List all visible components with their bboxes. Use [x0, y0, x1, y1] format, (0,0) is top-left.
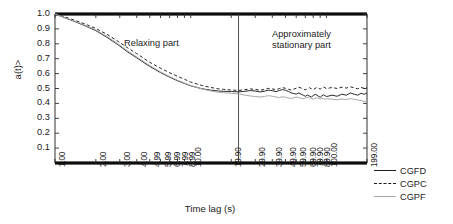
- x-tick-label: 4.99: [153, 152, 162, 167]
- x-tick-label: 49.90: [289, 148, 298, 168]
- legend-item-cgpc[interactable]: CGPC: [374, 177, 427, 190]
- x-tick-label: 19.90: [234, 148, 243, 168]
- annotation-relaxing-part: Relaxing part: [124, 38, 179, 49]
- legend: CGFD CGPC CGPF: [374, 164, 427, 203]
- legend-swatch-gray-icon: [374, 193, 396, 201]
- legend-swatch-solid-icon: [374, 167, 396, 175]
- legend-label-cgfd: CGFD: [400, 166, 426, 176]
- x-tick-label: 59.90: [299, 148, 308, 168]
- x-tick-label: 29.90: [258, 148, 267, 168]
- legend-item-cgfd[interactable]: CGFD: [374, 164, 427, 177]
- x-tick-label: 100.00: [330, 143, 339, 167]
- legend-label-cgpf: CGPF: [400, 192, 426, 202]
- x-tick-label: 1.00: [58, 152, 67, 167]
- x-tick-label: 5.99: [164, 152, 173, 167]
- figure-container: a(t)> 1.00.90.80.70.60.50.40.30.20.1 1.0…: [0, 0, 453, 224]
- x-tick-label: 10.00: [194, 148, 203, 168]
- x-tick-label: 4.00: [140, 152, 149, 167]
- x-tick-label: 39.90: [275, 148, 284, 168]
- annotation-stationary-part: Approximately stationary part: [272, 29, 331, 50]
- legend-item-cgpf[interactable]: CGPF: [374, 190, 427, 203]
- x-tick-label: 3.00: [123, 152, 132, 167]
- legend-label-cgpc: CGPC: [400, 179, 427, 189]
- x-axis-label: Time lag (s): [0, 203, 420, 214]
- x-tick-label: 2.00: [99, 152, 108, 167]
- legend-swatch-dashed-icon: [374, 180, 396, 188]
